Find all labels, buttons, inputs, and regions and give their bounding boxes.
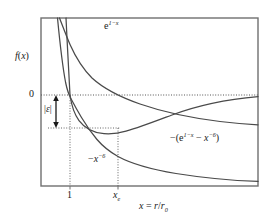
x-axis-tick-xe-sub: e	[117, 195, 120, 202]
curve-label-net: −(e1−x − x−6)	[170, 131, 219, 143]
curve-label-repulsive: e1−x	[104, 19, 118, 31]
curve-label-attractive-exponent: −6	[98, 152, 105, 159]
curve-label-net-e-exponent: 1−x	[183, 131, 193, 138]
exp-x: x	[116, 19, 119, 26]
plot-frame	[41, 18, 258, 186]
curve-label-attractive: −x−6	[88, 152, 105, 164]
potential-energy-figure	[0, 0, 274, 220]
curve-label-net-close: )	[216, 132, 219, 143]
curve-label-net-x-exponent: −6	[209, 131, 216, 138]
well-depth-label: |ε|	[44, 104, 52, 114]
x-axis-label: x = r/r0	[139, 200, 168, 213]
x-axis-tick-one: 1	[67, 189, 72, 200]
x-axis-label-eq: =	[143, 200, 154, 211]
y-axis-label-close: )	[26, 50, 29, 61]
epsilon-bar-right: |	[50, 104, 52, 114]
x-axis-tick-xe: xe	[113, 189, 120, 202]
x-axis-label-zero: 0	[165, 206, 168, 213]
curve-label-repulsive-exponent: 1−x	[108, 19, 118, 26]
curve-label-net-mid-minus: −	[193, 132, 204, 143]
y-axis-tick-zero: 0	[29, 88, 34, 99]
y-axis-label: f(x)	[15, 50, 29, 61]
